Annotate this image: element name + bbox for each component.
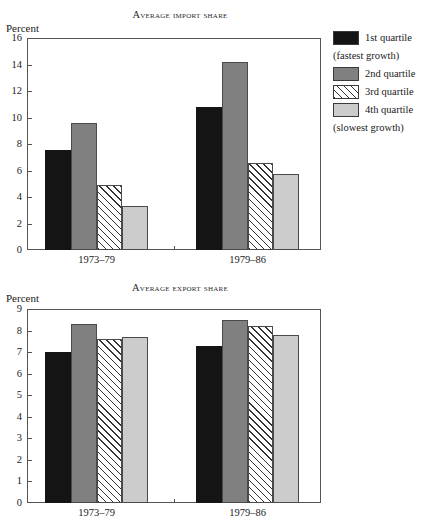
y-axis-unit-label-export: Percent <box>6 292 39 304</box>
legend-swatch-4th-quartile <box>333 103 359 117</box>
y-axis-tick-mark <box>28 224 32 225</box>
y-axis-tick-mark <box>28 481 32 482</box>
y-axis-tick-label: 0 <box>4 245 22 256</box>
y-axis-tick-label: 9 <box>4 304 22 315</box>
chart-average-export-share: Average export share Percent 01234567891… <box>0 280 427 529</box>
bar-1973-79-series-3 <box>97 185 123 250</box>
y-axis-tick-mark <box>28 460 32 461</box>
bar-1979-86-series-3 <box>248 163 274 250</box>
bar-1979-86-series-4 <box>273 174 299 250</box>
legend-note-fastest-growth: (fastest growth) <box>333 48 427 63</box>
y-axis-tick-label: 2 <box>4 219 22 230</box>
y-axis-tick-mark <box>28 118 32 119</box>
legend-item-3rd-quartile: 3rd quartile <box>333 84 427 99</box>
x-axis-tick-label: 1973–79 <box>67 254 127 265</box>
x-axis-tick-label: 1973–79 <box>67 507 127 518</box>
bar-1973-79-series-1 <box>45 150 71 250</box>
y-axis-tick-mark <box>28 438 32 439</box>
y-axis-tick-mark <box>28 144 32 145</box>
y-axis-tick-label: 6 <box>4 369 22 380</box>
y-axis-tick-label: 0 <box>4 498 22 509</box>
bar-1973-79-series-3 <box>97 339 123 503</box>
y-axis-tick-mark <box>28 331 32 332</box>
y-axis-tick-mark <box>28 197 32 198</box>
legend-item-1st-quartile: 1st quartile <box>333 30 427 45</box>
y-axis-tick-mark <box>28 91 32 92</box>
y-axis-tick-label: 2 <box>4 455 22 466</box>
y-axis-tick-mark <box>28 417 32 418</box>
y-axis-tick-mark <box>28 171 32 172</box>
y-axis-tick-label: 8 <box>4 326 22 337</box>
y-axis-tick-label: 3 <box>4 433 22 444</box>
y-axis-tick-mark <box>28 374 32 375</box>
legend-label-4th-quartile: 4th quartile <box>365 104 413 115</box>
x-axis-center-tick <box>174 246 175 250</box>
chart-title-export: Average export share <box>60 282 300 293</box>
y-axis-tick-label: 6 <box>4 166 22 177</box>
y-axis-tick-label: 14 <box>4 60 22 71</box>
legend-swatch-1st-quartile <box>333 31 359 45</box>
x-axis-tick-label: 1979–86 <box>218 507 278 518</box>
x-axis-tick-label: 1979–86 <box>218 254 278 265</box>
legend-swatch-2nd-quartile <box>333 67 359 81</box>
x-axis-center-tick <box>174 499 175 503</box>
y-axis-tick-mark <box>28 65 32 66</box>
legend-label-2nd-quartile: 2nd quartile <box>365 68 415 79</box>
bar-1973-79-series-2 <box>71 123 97 250</box>
bar-1979-86-series-3 <box>248 326 274 503</box>
bar-1973-79-series-1 <box>45 352 71 503</box>
legend-item-4th-quartile: 4th quartile <box>333 102 427 117</box>
y-axis-tick-label: 7 <box>4 347 22 358</box>
legend-item-2nd-quartile: 2nd quartile <box>333 66 427 81</box>
y-axis-tick-label: 12 <box>4 86 22 97</box>
y-axis-tick-label: 8 <box>4 139 22 150</box>
bar-1979-86-series-2 <box>222 62 248 250</box>
y-axis-tick-label: 4 <box>4 412 22 423</box>
legend-label-3rd-quartile: 3rd quartile <box>365 86 414 97</box>
bar-1979-86-series-2 <box>222 320 248 503</box>
bar-1979-86-series-1 <box>196 107 222 250</box>
bar-1979-86-series-1 <box>196 346 222 503</box>
y-axis-tick-label: 1 <box>4 476 22 487</box>
y-axis-tick-mark <box>28 395 32 396</box>
bar-1973-79-series-2 <box>71 324 97 503</box>
bar-1979-86-series-4 <box>273 335 299 503</box>
y-axis-tick-label: 5 <box>4 390 22 401</box>
chart-title-import: Average import share <box>60 9 300 20</box>
y-axis-tick-label: 10 <box>4 113 22 124</box>
y-axis-tick-label: 16 <box>4 33 22 44</box>
y-axis-tick-label: 4 <box>4 192 22 203</box>
chart-legend: 1st quartile (fastest growth) 2nd quarti… <box>333 30 427 138</box>
legend-note-slowest-growth: (slowest growth) <box>333 120 427 135</box>
bar-1973-79-series-4 <box>122 206 148 250</box>
bar-1973-79-series-4 <box>122 337 148 503</box>
y-axis-tick-mark <box>28 352 32 353</box>
legend-label-1st-quartile: 1st quartile <box>365 32 412 43</box>
legend-swatch-3rd-quartile <box>333 85 359 99</box>
